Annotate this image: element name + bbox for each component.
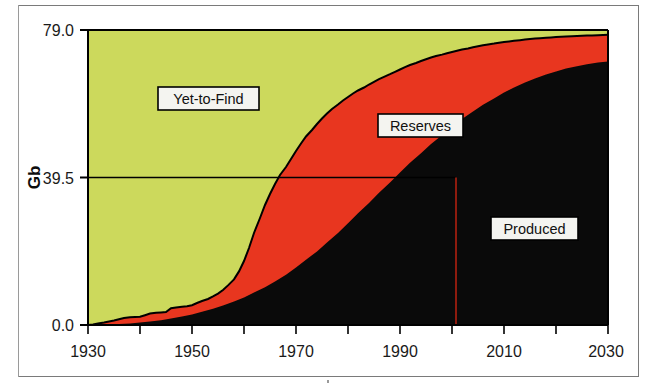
y-tick-label-0: 0.0 [52, 317, 74, 334]
annotation-produced: Produced [491, 217, 578, 240]
y-tick-label-79: 79.0 [43, 22, 74, 39]
annotation-label-produced: Produced [503, 221, 565, 237]
x-tick-label-1970: 1970 [278, 343, 314, 360]
chart-canvas: 79.0 39.5 0.0 Gb 1930 1950 1970 1990 201… [0, 0, 654, 386]
x-tick-label-1930: 1930 [70, 343, 106, 360]
annotation-label-yet-to-find: Yet-to-Find [173, 91, 243, 107]
annotation-label-reserves: Reserves [390, 118, 451, 134]
x-tick-label-2010: 2010 [486, 343, 522, 360]
scan-speck [327, 380, 329, 383]
x-tick-label-2030: 2030 [588, 343, 624, 360]
annotation-reserves: Reserves [378, 114, 463, 137]
y-tick-label-39-5: 39.5 [43, 170, 74, 187]
y-axis-title: Gb [25, 166, 44, 190]
area-chart-svg: 79.0 39.5 0.0 Gb 1930 1950 1970 1990 201… [0, 0, 654, 386]
x-tick-label-1950: 1950 [174, 343, 210, 360]
annotation-yet-to-find: Yet-to-Find [158, 87, 259, 110]
x-tick-label-1990: 1990 [382, 343, 418, 360]
